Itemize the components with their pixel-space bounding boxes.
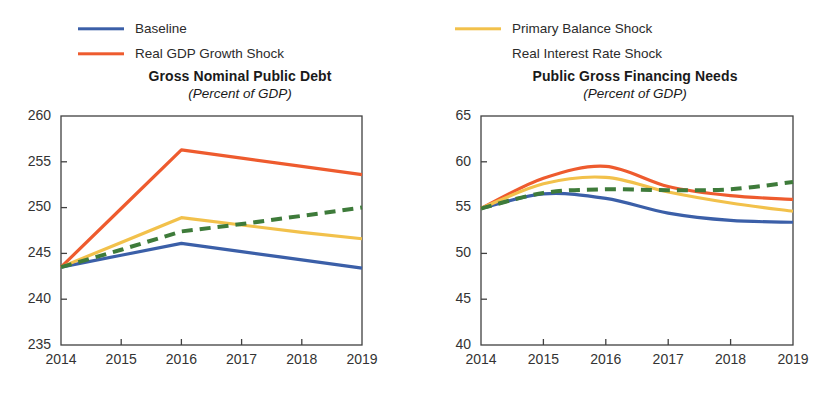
x-axis-tick-label: 2019	[777, 351, 808, 367]
legend-item-label: Baseline	[135, 20, 187, 38]
x-axis-tick-label: 2016	[166, 351, 197, 367]
legend-item-label: Real Interest Rate Shock	[512, 45, 662, 63]
legend-left-column: Baseline Real GDP Growth Shock	[78, 20, 284, 63]
legend-item-real-interest-rate-shock: Real Interest Rate Shock	[455, 45, 662, 63]
x-axis-tick-label: 2017	[653, 351, 684, 367]
x-axis-tick-label: 2014	[465, 351, 496, 367]
y-axis-tick-label: 50	[455, 244, 471, 260]
x-axis-tick-label: 2018	[715, 351, 746, 367]
x-axis-tick-label: 2018	[286, 351, 317, 367]
legend-item-real-gdp-growth-shock: Real GDP Growth Shock	[78, 45, 284, 63]
page-title: Public Gross Financing Needs	[455, 68, 815, 84]
y-axis-tick-label: 260	[28, 107, 52, 123]
line-swatch-icon	[455, 20, 501, 38]
legend-item-label: Real GDP Growth Shock	[135, 45, 284, 63]
y-axis-tick-label: 55	[455, 198, 471, 214]
x-axis-tick-label: 2015	[106, 351, 137, 367]
legend-item-baseline: Baseline	[78, 20, 284, 38]
y-axis-tick-label: 40	[455, 336, 471, 352]
chart-public-gross-financing-needs: 404550556065201420152016201720182019	[420, 100, 835, 380]
chart-subtitle: (Percent of GDP)	[455, 86, 815, 101]
page-title: Gross Nominal Public Debt	[60, 68, 420, 84]
x-axis-tick-label: 2017	[226, 351, 257, 367]
legend-item-primary-balance-shock: Primary Balance Shock	[455, 20, 662, 38]
y-axis-tick-label: 65	[455, 107, 471, 123]
y-axis-tick-label: 240	[28, 290, 52, 306]
legend-right-column: Primary Balance Shock Real Interest Rate…	[455, 20, 662, 63]
chart-gross-nominal-public-debt: 2352402452502552602014201520162017201820…	[0, 100, 400, 380]
left-plot-svg: 2352402452502552602014201520162017201820…	[0, 100, 400, 380]
y-axis-tick-label: 245	[28, 244, 52, 260]
left-chart-title-block: Gross Nominal Public Debt (Percent of GD…	[60, 68, 420, 101]
y-axis-tick-label: 255	[28, 153, 52, 169]
dashed-line-swatch-icon	[455, 45, 501, 63]
y-axis-tick-label: 250	[28, 198, 52, 214]
y-axis-tick-label: 60	[455, 153, 471, 169]
x-axis-tick-label: 2016	[590, 351, 621, 367]
figure-container: Baseline Real GDP Growth Shock Primary B…	[0, 0, 835, 397]
line-swatch-icon	[78, 45, 124, 63]
legend-item-label: Primary Balance Shock	[512, 20, 652, 38]
line-swatch-icon	[78, 20, 124, 38]
right-chart-title-block: Public Gross Financing Needs (Percent of…	[455, 68, 815, 101]
chart-subtitle: (Percent of GDP)	[60, 86, 420, 101]
x-axis-tick-label: 2015	[528, 351, 559, 367]
y-axis-tick-label: 235	[28, 336, 52, 352]
y-axis-tick-label: 45	[455, 290, 471, 306]
x-axis-tick-label: 2019	[346, 351, 377, 367]
x-axis-tick-label: 2014	[45, 351, 76, 367]
right-plot-svg: 404550556065201420152016201720182019	[420, 100, 835, 380]
